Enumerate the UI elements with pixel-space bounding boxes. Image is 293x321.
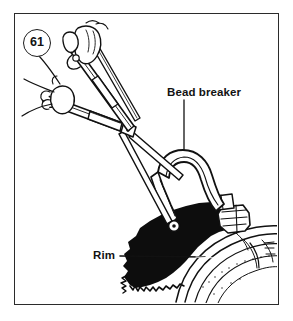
figure-illustration: 61 Bead breaker Rim — [0, 0, 293, 321]
figure-number-badge: 61 — [23, 29, 51, 57]
figure-number-text: 61 — [30, 36, 44, 50]
label-bead-breaker: Bead breaker — [167, 86, 241, 98]
figure-frame — [14, 13, 279, 305]
label-rim: Rim — [93, 249, 115, 261]
